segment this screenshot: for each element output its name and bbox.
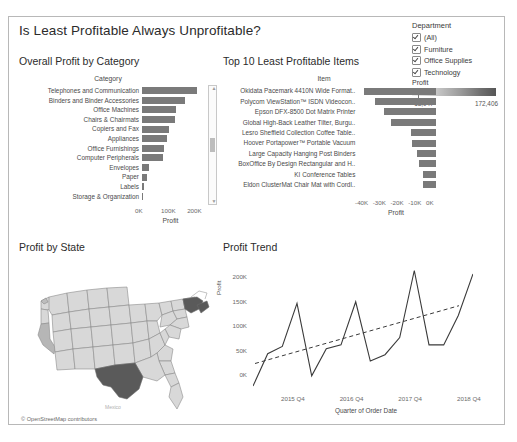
bar[interactable] [391,119,436,126]
bar[interactable] [142,193,143,200]
trend-line-svg [253,269,473,389]
table-row[interactable]: Polycom ViewStation™ ISDN Videocon.. [221,96,436,106]
checkbox-icon[interactable] [412,56,421,65]
least-profitable-items-chart: Item Okidata Pacemark 4410N Wide Format.… [221,75,436,223]
item-label: BoxOffice By Design Rectangular and H.. [221,159,358,169]
trend-y-tick-label: 0K [225,371,247,378]
category-label: Appliances [17,134,142,144]
panel-title-least-profitable: Top 10 Least Profitable Items [223,55,359,67]
category-label: Copiers and Fax [17,124,142,134]
table-row[interactable]: Eldon ClusterMat Chair Mat with Cordl.. [221,180,436,190]
item-label: Hoover Portapower™ Portable Vacuum [221,138,358,148]
bar[interactable] [411,129,436,136]
bar[interactable] [142,145,164,152]
item-label: Lesro Sheffield Collection Coffee Table.… [221,128,358,138]
item-label: Epson DFX-8500 Dot Matrix Printer [221,107,358,117]
bar-track [358,138,436,148]
axis-tick-label: -40K [355,199,368,206]
bar-track [358,169,436,179]
table-row[interactable]: Okidata Pacemark 4410N Wide Format.. [221,86,436,96]
bar[interactable] [142,164,149,171]
table-row[interactable]: Copiers and Fax [17,124,202,134]
bar[interactable] [142,87,197,94]
category-label: Chairs & Chairmats [17,115,142,125]
table-row[interactable]: KI Conference Tables [221,169,436,179]
trend-x-tick-label: 2017 Q4 [398,395,422,402]
trend-x-tick-label: 2016 Q4 [340,395,364,402]
table-row[interactable]: Storage & Organization [17,192,202,202]
table-row[interactable]: Lesro Sheffield Collection Coffee Table.… [221,128,436,138]
scrollbar-thumb[interactable] [210,138,215,152]
category-label: Envelopes [17,163,142,173]
category-label: Labels [17,182,142,192]
bar[interactable] [142,97,185,104]
map-canvas[interactable]: Mexico [19,257,215,423]
trend-plot-area [253,269,473,389]
department-filter-item-office-supplies[interactable]: Office Supplies [412,56,498,65]
checkbox-icon[interactable] [412,45,421,54]
bar-track [358,117,436,127]
department-filter-title: Department [412,21,498,30]
scroll-down-arrow-icon[interactable]: ▼ [212,199,217,204]
table-row[interactable]: Epson DFX-8500 Dot Matrix Printer [221,107,436,117]
bar-track [358,128,436,138]
scroll-up-arrow-icon[interactable]: ▲ [212,86,217,91]
table-row[interactable]: Computer Peripherals [17,153,202,163]
table-row[interactable]: Large Capacity Hanging Post Binders [221,148,436,158]
bar-track [142,86,202,96]
checkbox-icon[interactable] [412,33,421,42]
table-row[interactable]: Appliances [17,134,202,144]
bar[interactable] [142,154,163,161]
table-row[interactable]: Office Furnishings [17,144,202,154]
bar[interactable] [412,140,436,147]
department-filter-item-furniture[interactable]: Furniture [412,45,498,54]
bar-track [358,107,436,117]
bar[interactable] [142,183,144,190]
table-row[interactable]: BoxOffice By Design Rectangular and H.. [221,159,436,169]
axis-tick-label: 200K [187,207,201,214]
table-row[interactable]: Telephones and Communication [17,86,202,96]
axis-tick-label: 0K [426,199,434,206]
bar-track [358,148,436,158]
bar-track [358,159,436,169]
bar-track [142,182,202,192]
bar[interactable] [384,108,436,115]
table-row[interactable]: Binders and Binder Accessories [17,96,202,106]
bar[interactable] [142,126,169,133]
bar[interactable] [142,106,176,113]
bar-track [142,153,202,163]
bar[interactable] [142,135,167,142]
bar[interactable] [423,171,436,178]
right-chart-x-axis-label: Profit [354,209,438,216]
table-row[interactable]: Global High-Back Leather Tilter, Burgu.. [221,117,436,127]
table-row[interactable]: Labels [17,182,202,192]
table-row[interactable]: Paper [17,172,202,182]
category-label: Storage & Organization [17,192,142,202]
bar[interactable] [417,150,436,157]
bar[interactable] [423,181,436,188]
profit-by-state-map[interactable]: Mexico © OpenStreetMap contributors [17,239,217,425]
bar[interactable] [142,116,175,123]
bar[interactable] [364,88,436,95]
table-row[interactable]: Envelopes [17,163,202,173]
bar-track [142,172,202,182]
table-row[interactable]: Office Machines [17,105,202,115]
table-row[interactable]: Hoover Portapower™ Portable Vacuum [221,138,436,148]
category-label: Office Furnishings [17,144,142,154]
trend-x-tick-label: 2015 Q4 [281,395,305,402]
department-filter[interactable]: Department (All) Furniture Office Suppli… [412,21,498,79]
items-scrollbar[interactable]: ▲ ▼ [208,85,217,205]
bar[interactable] [142,174,147,181]
item-label: KI Conference Tables [221,170,358,180]
bar[interactable] [419,160,436,167]
axis-tick-label: -30K [373,199,386,206]
department-filter-item-all[interactable]: (All) [412,33,498,42]
bar-track [142,115,202,125]
table-row[interactable]: Chairs & Chairmats [17,115,202,125]
item-label: Global High-Back Leather Tilter, Burgu.. [221,118,358,128]
profit-trend-chart: Profit 0K50K100K150K200K 2015 Q42016 Q42… [221,239,503,425]
axis-tick-label: 0K [135,207,143,214]
bar[interactable] [375,98,436,105]
trend-y-tick-label: 100K [225,322,247,329]
item-label: Okidata Pacemark 4410N Wide Format.. [221,86,358,96]
